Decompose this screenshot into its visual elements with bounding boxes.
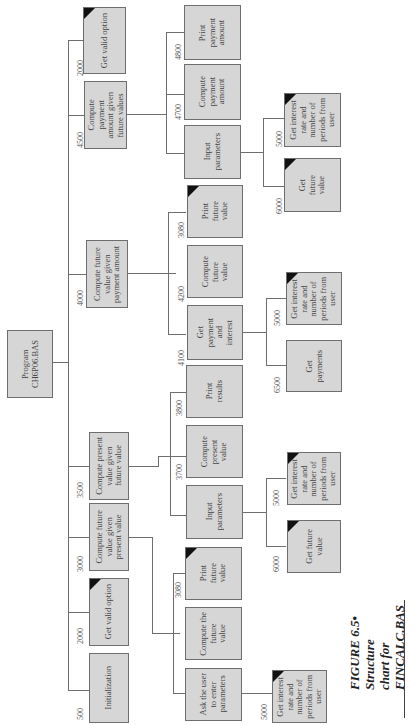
connector	[68, 466, 89, 467]
module-number: 500	[76, 708, 85, 720]
connector	[168, 212, 186, 213]
module-get-payment-and-interest: Get payment and interest	[187, 305, 243, 360]
figure-number: FIGURE 6.5•	[347, 605, 362, 690]
module-number: 5000	[272, 490, 281, 506]
module-number: 3000	[76, 556, 85, 572]
connector	[152, 633, 180, 634]
module-print-future-value: Print future value	[187, 185, 243, 238]
connector	[127, 114, 167, 115]
connector	[266, 478, 267, 546]
connector	[129, 537, 152, 538]
module-number: 3080	[174, 582, 183, 598]
connector	[241, 152, 264, 153]
module-number: 4100	[177, 350, 186, 366]
module-get-valid-option-top: Get valid option	[83, 7, 126, 74]
figure-caption: FIGURE 6.5• Structure chart for FINCALC.…	[347, 605, 407, 690]
module-input-parameters-pv: Input parameters	[186, 485, 243, 539]
module-number: 6000	[275, 198, 284, 214]
module-compute-present-value: Compute present value	[186, 425, 243, 478]
root-label: Program CH6P06.BAS	[21, 340, 40, 388]
module-compute-pv-given-fv: Compute present value given future value	[89, 432, 129, 500]
module-number: 2000	[76, 628, 85, 644]
connector	[168, 334, 186, 335]
connector	[266, 546, 286, 547]
module-get-future-value: Get future value	[284, 158, 341, 212]
connector	[152, 537, 153, 634]
module-compute-the-future-value: Compute the future value	[185, 607, 242, 660]
connector	[263, 118, 264, 186]
connector	[263, 118, 285, 119]
connector	[68, 537, 89, 538]
module-number: 5000	[260, 704, 269, 720]
connector	[173, 693, 185, 694]
connector	[166, 32, 167, 154]
connector	[158, 456, 159, 467]
module-compute-fv-given-pv: Compute future value given present value	[89, 503, 129, 571]
module-number: 3800	[175, 400, 184, 416]
module-number: 4800	[174, 44, 183, 60]
module-number: 5000	[273, 310, 282, 326]
root-program-box: Program CH6P06.BAS	[7, 330, 53, 398]
connector	[243, 332, 267, 333]
connector	[129, 466, 159, 467]
module-get-future-value: Get future value	[287, 520, 341, 573]
module-number: 4200	[177, 286, 186, 302]
module-ask-user-parameters: Ask the user to enter parameters	[185, 668, 242, 721]
connector	[166, 94, 184, 95]
connector	[263, 186, 285, 187]
module-number: 3080	[177, 222, 186, 238]
module-number: 6000	[272, 556, 281, 572]
connector	[266, 298, 267, 365]
module-number: 3700	[175, 464, 184, 480]
module-number: 4700	[174, 104, 183, 120]
module-compute-payment-amount: Compute payment amount	[184, 64, 241, 120]
module-get-payments: Get payments	[286, 340, 342, 392]
connector	[242, 693, 272, 694]
connector	[53, 362, 69, 363]
connector	[243, 512, 266, 513]
module-get-interest-rate: Get interest rate and number of periods …	[284, 93, 341, 147]
caption-divider	[404, 600, 405, 718]
module-get-interest-rate: Get interest rate and number of periods …	[272, 670, 327, 723]
caption-line: chart for	[377, 605, 392, 690]
connector	[166, 153, 184, 154]
module-compute-future-value: Compute future value	[187, 245, 243, 298]
connector	[68, 612, 89, 613]
connector	[170, 392, 171, 516]
module-print-future-value: Print future value	[185, 547, 242, 600]
connector	[266, 298, 286, 299]
module-input-parameters-payment: Input parameters	[184, 125, 241, 179]
module-print-payment-amount: Print payment amount	[184, 5, 241, 60]
connector	[173, 573, 185, 574]
module-get-interest-rate: Get interest rate and number of periods …	[287, 452, 341, 505]
module-get-valid-option: Get valid option	[89, 578, 129, 646]
connector	[168, 212, 169, 334]
connector-trunk	[68, 40, 69, 691]
connector	[68, 690, 89, 691]
connector	[266, 365, 286, 366]
connector	[170, 392, 186, 393]
module-number: 4000	[76, 290, 85, 306]
connector	[166, 32, 184, 33]
module-compute-payment-given-fv: Compute payment amount given future valu…	[84, 81, 127, 149]
module-number: 6500	[273, 377, 282, 393]
module-compute-fv-given-payment: Compute future value given payment amoun…	[86, 240, 128, 308]
module-number: 5000	[275, 131, 284, 147]
module-print-results: Print results	[186, 365, 243, 418]
module-number: 3500	[76, 482, 85, 498]
module-initialization: Initialization	[89, 653, 129, 723]
connector	[170, 515, 186, 516]
connector	[266, 478, 286, 479]
connector	[158, 456, 186, 457]
module-get-interest-rate: Get interest rate and number of periods …	[286, 272, 342, 325]
caption-line: Structure	[362, 605, 377, 690]
